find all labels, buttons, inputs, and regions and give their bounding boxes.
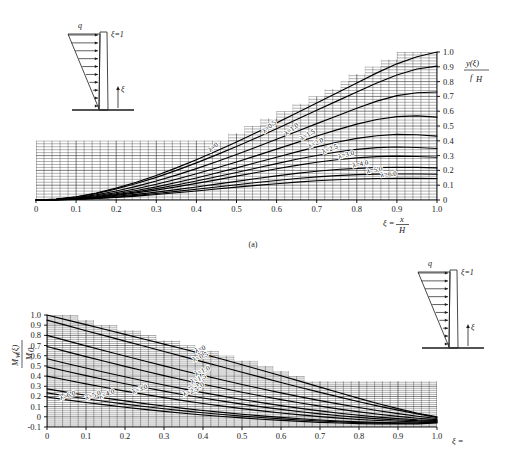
panel-a-xtick: 0 xyxy=(34,204,38,214)
panel-b-xtick: 0.7 xyxy=(315,431,326,441)
inset-load-arrowhead xyxy=(445,295,448,298)
inset-column xyxy=(99,32,108,110)
figure-container: 00.10.20.30.40.50.60.70.80.91.000.10.20.… xyxy=(0,0,507,453)
panel-b-ytick: 1.0 xyxy=(30,310,41,320)
svg-text:(ξ): (ξ) xyxy=(10,345,20,354)
inset-load-arrowhead xyxy=(445,319,448,322)
inset-load-arrowhead xyxy=(445,287,448,290)
panel-b-ytick: 0.3 xyxy=(30,381,41,391)
panel-b-ytick: 0.8 xyxy=(30,330,41,340)
panel-a-xtick: 0.1 xyxy=(71,204,82,214)
panel-b-xtick: 0.6 xyxy=(276,431,287,441)
panel-a-xtick: 0.3 xyxy=(151,204,162,214)
panel-a-ytick: 0.1 xyxy=(443,180,454,190)
svg-text:ξ =: ξ = xyxy=(452,436,464,446)
inset-diagram-a: ξqξ=1 xyxy=(68,21,134,110)
panel-a-y-axis-title: y(ξ)fH xyxy=(464,58,489,84)
inset-load-arrowhead xyxy=(445,279,448,282)
svg-text:M: M xyxy=(24,352,34,361)
inset-column xyxy=(449,270,458,348)
inset-top-label: ξ=1 xyxy=(111,30,124,39)
svg-text:f: f xyxy=(470,72,474,82)
inset-load-arrowhead xyxy=(95,89,98,92)
panel-a-ytick: 0.6 xyxy=(443,106,454,116)
svg-text:H: H xyxy=(398,225,406,235)
panel-b-xtick: 0.1 xyxy=(81,431,92,441)
panel-b-ytick: 0.2 xyxy=(30,391,41,401)
panel-a-label-0: λ=0 xyxy=(206,140,220,153)
panel-a-xtick: 0.4 xyxy=(191,204,202,214)
panel-b-xtick: 0.5 xyxy=(237,431,248,441)
svg-text:H: H xyxy=(475,74,483,84)
inset-load-arrowhead xyxy=(95,49,98,52)
panel-a-ytick: 0.2 xyxy=(443,165,454,175)
panel-b-ytick: 0.5 xyxy=(30,361,41,371)
panel-a-xtick: 0.8 xyxy=(351,204,362,214)
panel-b: 00.10.20.30.40.50.60.70.80.91.0-0.100.10… xyxy=(10,310,464,446)
inset-xi-arrowhead xyxy=(116,86,120,90)
inset-load-arrowhead xyxy=(95,81,98,84)
panel-a-ytick: 0 xyxy=(443,195,447,205)
panel-b-xtick: 0.3 xyxy=(159,431,170,441)
inset-load-arrowhead xyxy=(95,73,98,76)
panel-a-xtick: 0.2 xyxy=(111,204,122,214)
panel-a-ytick: 0.8 xyxy=(443,77,454,87)
panel-a-xtick: 0.6 xyxy=(271,204,282,214)
inset-load-arrowhead xyxy=(445,335,448,338)
inset-xi-arrowhead xyxy=(466,324,470,328)
panel-b-xtick: 0 xyxy=(45,431,49,441)
panel-b-ytick: 0 xyxy=(37,412,41,422)
svg-text:y(ξ): y(ξ) xyxy=(465,58,479,68)
panel-a: 00.10.20.30.40.50.60.70.80.91.000.10.20.… xyxy=(34,47,489,249)
inset-load-arrowhead xyxy=(445,311,448,314)
panel-a-ytick: 0.5 xyxy=(443,121,454,131)
panel-a-ytick: 0.7 xyxy=(443,91,454,101)
svg-text:M: M xyxy=(10,358,20,367)
inset-load-arrowhead xyxy=(95,41,98,44)
panel-a-ytick: 0.4 xyxy=(443,136,454,146)
inset-load-arrowhead xyxy=(445,327,448,330)
panel-a-x-axis-title: ξ =xH xyxy=(383,214,409,235)
panel-a-label-0.5: λ=0.5 xyxy=(261,118,279,135)
inset-load-arrowhead xyxy=(95,97,98,100)
svg-text:ξ =: ξ = xyxy=(383,218,395,228)
panel-b-xtick: 1.0 xyxy=(432,431,443,441)
panel-a-xtick: 1.0 xyxy=(432,204,443,214)
panel-b-ytick: 0.9 xyxy=(30,320,41,330)
panel-a-xtick: 0.7 xyxy=(311,204,322,214)
inset-xi-label: ξ xyxy=(471,323,475,332)
inset-load-arrowhead xyxy=(95,65,98,68)
panel-b-ytick: 0.4 xyxy=(30,371,41,381)
panel-b-curve-labels: λ=0λ=0.5λ=1.0λ=1.5λ=2.0λ=2.5λ=3.0λ=4.0λ=… xyxy=(59,343,212,402)
inset-load-arrowhead xyxy=(95,57,98,60)
panel-a-ytick: 1.0 xyxy=(443,47,454,57)
panel-b-ytick: -0.1 xyxy=(28,422,41,432)
inset-xi-label: ξ xyxy=(121,85,125,94)
panel-a-caption: (a) xyxy=(249,240,258,249)
inset-q-label: q xyxy=(78,21,82,30)
panel-b-xtick: 0.8 xyxy=(354,431,365,441)
panel-a-ytick: 0.9 xyxy=(443,62,454,72)
panel-b-ytick: 0.1 xyxy=(30,402,41,412)
panel-b-xtick: 0.4 xyxy=(198,431,209,441)
inset-q-label: q xyxy=(428,259,432,268)
panel-a-ytick: 0.3 xyxy=(443,151,454,161)
panel-a-xtick: 0.5 xyxy=(231,204,242,214)
panel-b-xtick: 0.2 xyxy=(120,431,131,441)
panel-a-xtick: 0.9 xyxy=(392,204,403,214)
inset-top-label: ξ=1 xyxy=(461,268,474,277)
panel-a-label-6.0: λ=6.0 xyxy=(380,170,397,180)
inset-load-arrowhead xyxy=(445,303,448,306)
inset-diagram-b: ξqξ=1 xyxy=(418,259,484,348)
figure-svg: 00.10.20.30.40.50.60.70.80.91.000.10.20.… xyxy=(0,0,507,453)
panel-b-x-axis-title: ξ = xyxy=(452,436,464,446)
panel-b-xtick: 0.9 xyxy=(393,431,404,441)
svg-text:x: x xyxy=(399,214,404,224)
